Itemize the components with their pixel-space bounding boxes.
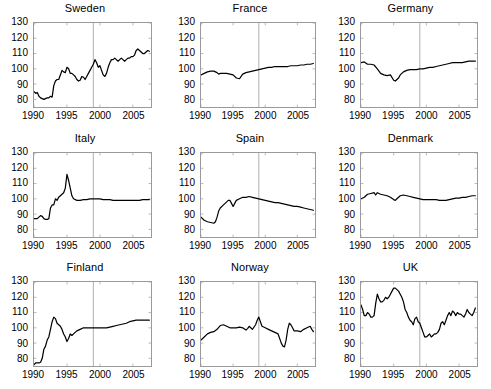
- x-tick-label: 2005: [287, 240, 309, 251]
- y-axis-labels-italy: 1301201101009080: [0, 152, 30, 238]
- x-tick-label: 1990: [349, 110, 371, 121]
- y-tick-label: 90: [184, 210, 195, 220]
- y-tick-label: 80: [17, 225, 28, 235]
- y-axis-labels-spain: 1301201101009080: [167, 152, 197, 238]
- y-tick-label: 90: [344, 80, 355, 90]
- panel-title-uk: UK: [330, 261, 491, 273]
- y-tick-label: 100: [178, 194, 195, 204]
- y-tick-label: 110: [339, 178, 355, 188]
- x-tick-label: 1995: [222, 369, 244, 380]
- y-axis-labels-norway: 1301201101009080: [167, 281, 197, 367]
- panel-title-sweden: Sweden: [0, 2, 170, 14]
- x-tick-label: 1995: [222, 240, 244, 251]
- y-tick-label: 100: [338, 64, 355, 74]
- panel-title-finland: Finland: [0, 261, 170, 273]
- y-tick-label: 120: [178, 33, 195, 43]
- y-axis-labels-uk: 1301201101009080: [327, 281, 357, 367]
- y-tick-label: 110: [12, 307, 28, 317]
- y-tick-label: 80: [17, 95, 28, 105]
- y-tick-label: 100: [178, 323, 195, 333]
- panel-title-spain: Spain: [170, 132, 330, 144]
- y-tick-label: 130: [11, 147, 28, 157]
- x-tick-label: 1995: [55, 110, 77, 121]
- y-axis-labels-sweden: 1301201101009080: [0, 22, 30, 108]
- panel-norway: Norway13012011010090801990199520002005: [170, 259, 330, 389]
- x-tick-label: 1995: [382, 110, 404, 121]
- panel-title-france: France: [170, 2, 330, 14]
- panel-spain: Spain13012011010090801990199520002005: [170, 130, 330, 259]
- x-tick-label: 1990: [22, 240, 44, 251]
- x-tick-label: 2000: [415, 240, 437, 251]
- y-tick-label: 120: [338, 163, 355, 173]
- y-tick-label: 110: [12, 48, 28, 58]
- x-tick-label: 2000: [89, 110, 111, 121]
- y-tick-label: 100: [338, 194, 355, 204]
- x-axis-labels-uk: 1990199520002005: [360, 369, 478, 383]
- y-tick-label: 100: [178, 64, 195, 74]
- x-tick-label: 2005: [287, 369, 309, 380]
- y-tick-label: 80: [344, 354, 355, 364]
- y-tick-label: 120: [178, 292, 195, 302]
- x-tick-label: 1990: [189, 369, 211, 380]
- y-tick-label: 90: [17, 339, 28, 349]
- y-tick-label: 90: [17, 80, 28, 90]
- y-tick-label: 130: [11, 276, 28, 286]
- x-axis-labels-italy: 1990199520002005: [33, 240, 152, 254]
- x-tick-label: 1995: [222, 110, 244, 121]
- panel-italy: Italy13012011010090801990199520002005: [0, 130, 170, 259]
- x-tick-label: 2005: [449, 240, 471, 251]
- y-tick-label: 120: [338, 33, 355, 43]
- panel-germany: Germany13012011010090801990199520002005: [330, 0, 491, 130]
- x-tick-label: 1990: [22, 369, 44, 380]
- x-tick-label: 2005: [449, 369, 471, 380]
- y-tick-label: 130: [11, 17, 28, 27]
- y-tick-label: 80: [184, 95, 195, 105]
- plot-area-norway: [200, 281, 316, 367]
- y-tick-label: 120: [338, 292, 355, 302]
- y-axis-labels-germany: 1301201101009080: [327, 22, 357, 108]
- y-tick-label: 100: [11, 64, 28, 74]
- y-axis-labels-denmark: 1301201101009080: [327, 152, 357, 238]
- x-tick-label: 1990: [189, 240, 211, 251]
- x-axis-labels-germany: 1990199520002005: [360, 110, 478, 124]
- y-tick-label: 90: [344, 339, 355, 349]
- y-tick-label: 80: [184, 225, 195, 235]
- panel-title-norway: Norway: [170, 261, 330, 273]
- figure-grid: Sweden13012011010090801990199520002005Fr…: [0, 0, 491, 389]
- y-tick-label: 80: [17, 354, 28, 364]
- x-tick-label: 2005: [449, 110, 471, 121]
- x-tick-label: 2000: [254, 110, 276, 121]
- y-tick-label: 130: [178, 17, 195, 27]
- plot-area-france: [200, 22, 316, 108]
- x-tick-label: 1995: [55, 240, 77, 251]
- y-tick-label: 120: [11, 163, 28, 173]
- y-tick-label: 80: [344, 225, 355, 235]
- x-axis-labels-finland: 1990199520002005: [33, 369, 152, 383]
- x-tick-label: 1990: [349, 240, 371, 251]
- x-tick-label: 2000: [254, 240, 276, 251]
- x-tick-label: 1990: [22, 110, 44, 121]
- plot-area-spain: [200, 152, 316, 238]
- x-axis-labels-france: 1990199520002005: [200, 110, 316, 124]
- panel-title-denmark: Denmark: [330, 132, 491, 144]
- x-tick-label: 1995: [382, 369, 404, 380]
- y-tick-label: 90: [184, 80, 195, 90]
- x-tick-label: 1990: [189, 110, 211, 121]
- y-tick-label: 90: [344, 210, 355, 220]
- y-tick-label: 110: [12, 178, 28, 188]
- x-tick-label: 2000: [415, 110, 437, 121]
- panel-sweden: Sweden13012011010090801990199520002005: [0, 0, 170, 130]
- x-tick-label: 2000: [415, 369, 437, 380]
- y-tick-label: 130: [178, 147, 195, 157]
- x-tick-label: 2005: [122, 369, 144, 380]
- x-tick-label: 2000: [89, 369, 111, 380]
- x-tick-label: 1995: [382, 240, 404, 251]
- y-tick-label: 130: [178, 276, 195, 286]
- plot-area-germany: [360, 22, 478, 108]
- panel-title-italy: Italy: [0, 132, 170, 144]
- plot-area-italy: [33, 152, 152, 238]
- plot-area-uk: [360, 281, 478, 367]
- y-tick-label: 110: [339, 48, 355, 58]
- x-tick-label: 1995: [55, 369, 77, 380]
- y-tick-label: 110: [339, 307, 355, 317]
